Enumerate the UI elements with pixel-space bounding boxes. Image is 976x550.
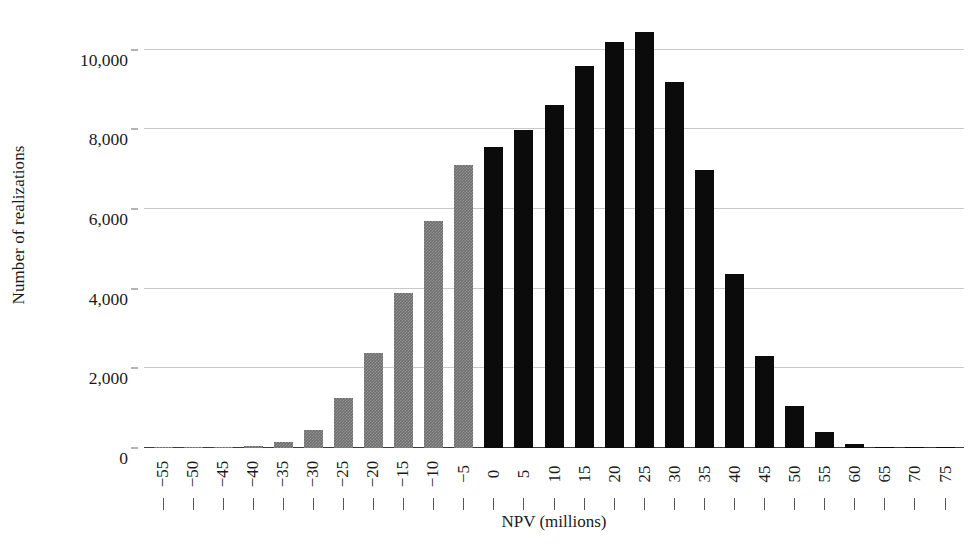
bar-slot: [419, 10, 449, 448]
x-tick-slot: 45: [750, 450, 780, 512]
bar[interactable]: [244, 446, 263, 448]
bar[interactable]: [936, 447, 955, 449]
bar[interactable]: [815, 432, 834, 448]
x-tick-mark: [223, 498, 224, 510]
bar-slot: [659, 10, 689, 448]
bar-slot: [900, 10, 930, 448]
bar[interactable]: [785, 406, 804, 448]
x-tick-mark: [283, 498, 284, 510]
bar[interactable]: [665, 82, 684, 448]
x-tick-label: −30: [303, 461, 323, 488]
x-tick-slot: 60: [840, 450, 870, 512]
bar-slot: [178, 10, 208, 448]
x-tick-mark: [824, 498, 825, 510]
y-tick-mark: [131, 448, 138, 449]
x-tick-mark: [704, 498, 705, 510]
x-tick-slot: −10: [419, 450, 449, 512]
x-tick-mark: [163, 498, 164, 510]
x-tick-mark: [433, 498, 434, 510]
bar[interactable]: [424, 221, 443, 448]
y-axis-title-text: Number of realizations: [9, 146, 29, 305]
x-tick-label: 70: [905, 466, 925, 483]
bar[interactable]: [545, 105, 564, 448]
bar[interactable]: [274, 442, 293, 448]
bar[interactable]: [695, 170, 714, 448]
x-tick-mark: [764, 498, 765, 510]
bar[interactable]: [454, 165, 473, 449]
bar-slot: [208, 10, 238, 448]
x-tick-label: 30: [664, 466, 684, 483]
bar-slot: [389, 10, 419, 448]
x-tick-mark: [854, 498, 855, 510]
bar-slot: [328, 10, 358, 448]
bar[interactable]: [364, 353, 383, 448]
bar[interactable]: [214, 447, 233, 449]
x-tick-label: 35: [694, 466, 714, 483]
bar-slot: [539, 10, 569, 448]
bar[interactable]: [514, 130, 533, 448]
y-axis-title: Number of realizations: [6, 0, 32, 450]
bar-slot: [569, 10, 599, 448]
bar[interactable]: [334, 398, 353, 448]
x-tick-label: 0: [484, 470, 504, 479]
x-tick-mark: [253, 498, 254, 510]
bar-slot: [870, 10, 900, 448]
x-tick-slot: −50: [178, 450, 208, 512]
x-tick-slot: 15: [569, 450, 599, 512]
y-tick-mark: [131, 129, 138, 130]
bar[interactable]: [845, 444, 864, 448]
x-tick-mark: [193, 498, 194, 510]
bar-slot: [930, 10, 960, 448]
x-tick-slot: 30: [659, 450, 689, 512]
bar[interactable]: [304, 430, 323, 448]
bar-slot: [298, 10, 328, 448]
x-tick-label: 55: [815, 466, 835, 483]
bar[interactable]: [875, 447, 894, 449]
x-tick-label: −35: [273, 461, 293, 488]
x-tick-label: 40: [725, 466, 745, 483]
x-tick-slot: −55: [148, 450, 178, 512]
bar-slot: [359, 10, 389, 448]
bar[interactable]: [484, 147, 503, 448]
x-tick-label: 10: [544, 466, 564, 483]
bar[interactable]: [725, 274, 744, 448]
x-tick-slot: −25: [328, 450, 358, 512]
x-tick-label: 15: [574, 466, 594, 483]
bar[interactable]: [905, 447, 924, 449]
bar-slot: [840, 10, 870, 448]
bar[interactable]: [575, 66, 594, 448]
x-tick-label: 50: [785, 466, 805, 483]
bar[interactable]: [635, 32, 654, 448]
npv-histogram-chart: Number of realizations 02,0004,0006,0008…: [0, 0, 976, 550]
bar[interactable]: [184, 447, 203, 449]
x-tick-slot: −40: [238, 450, 268, 512]
bar-slot: [509, 10, 539, 448]
plot-area: [144, 10, 964, 448]
bar[interactable]: [605, 42, 624, 448]
bar[interactable]: [154, 447, 173, 449]
x-tick-slot: −5: [449, 450, 479, 512]
bar[interactable]: [755, 356, 774, 448]
x-tick-mark: [794, 498, 795, 510]
x-tick-label: −40: [243, 461, 263, 488]
x-tick-mark: [945, 498, 946, 510]
bar[interactable]: [394, 293, 413, 448]
y-tick-mark: [131, 209, 138, 210]
x-tick-mark: [313, 498, 314, 510]
x-tick-mark: [584, 498, 585, 510]
bar-slot: [599, 10, 629, 448]
x-tick-mark: [644, 498, 645, 510]
x-tick-label: −50: [183, 461, 203, 488]
x-axis-title: NPV (millions): [144, 512, 964, 532]
x-tick-slot: −35: [268, 450, 298, 512]
bar-slot: [238, 10, 268, 448]
x-tick-mark: [523, 498, 524, 510]
x-tick-slot: 0: [479, 450, 509, 512]
x-tick-label: 20: [604, 466, 624, 483]
x-tick-slot: 75: [930, 450, 960, 512]
x-tick-slot: −20: [359, 450, 389, 512]
x-tick-label: −10: [424, 461, 444, 488]
x-tick-mark: [734, 498, 735, 510]
x-tick-mark: [403, 498, 404, 510]
x-tick-label: 75: [935, 466, 955, 483]
